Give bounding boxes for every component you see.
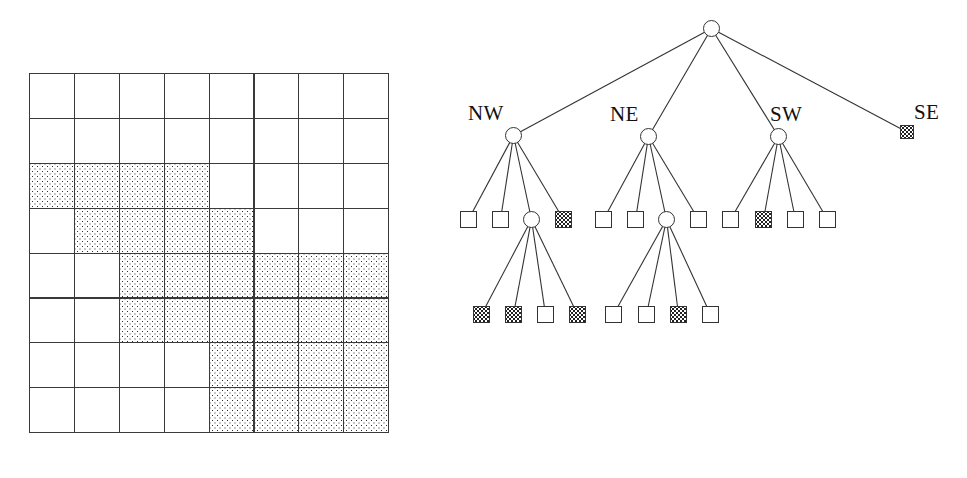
tree-node-ne-sw: [658, 211, 675, 228]
tree-node-nw-sw-ne: [505, 306, 522, 323]
tree-edge-root-to-sw: [712, 29, 779, 137]
grid-cell-r0-c7: [343, 73, 389, 119]
tree-node-ne-sw-sw: [670, 306, 687, 323]
grid-cell-r1-c6: [298, 118, 344, 164]
grid-cell-r1-c3: [164, 118, 210, 164]
grid-cell-r5-c2: [119, 298, 165, 344]
tree-node-nw: [505, 127, 522, 144]
grid-cell-r5-c5: [254, 298, 300, 344]
grid-cell-r4-c1: [74, 253, 120, 299]
tree-node-nw-sw-sw: [537, 306, 554, 323]
grid-cell-r3-c3: [164, 208, 210, 254]
grid-cell-r4-c4: [209, 253, 255, 299]
grid-cell-r5-c1: [74, 298, 120, 344]
tree-node-ne-sw-ne: [638, 306, 655, 323]
grid-cell-r3-c0: [29, 208, 75, 254]
tree-node-sw: [770, 128, 787, 145]
region-grid: [29, 73, 388, 447]
tree-edge-nw-to-nw-sw: [514, 136, 532, 220]
grid-cell-r7-c2: [119, 387, 165, 433]
grid-cell-r1-c7: [343, 118, 389, 164]
quadtree-tree: NWNESWSE: [430, 0, 967, 478]
grid-cell-r2-c3: [164, 163, 210, 209]
grid-cell-r1-c0: [29, 118, 75, 164]
grid-cell-r4-c3: [164, 253, 210, 299]
tree-edge-ne-to-ne-se: [649, 137, 699, 220]
grid-cell-r6-c5: [254, 342, 300, 388]
label-ne: NE: [610, 104, 639, 125]
grid-cell-r2-c5: [254, 163, 300, 209]
tree-edge-ne-sw-to-ne-sw-nw: [614, 220, 667, 315]
grid-cell-r0-c4: [209, 73, 255, 119]
grid-cell-r5-c7: [343, 298, 389, 344]
label-nw: NW: [468, 103, 504, 124]
grid-cell-r6-c7: [343, 342, 389, 388]
grid-cell-r6-c2: [119, 342, 165, 388]
tree-node-ne-ne: [627, 211, 644, 228]
tree-node-nw-ne: [492, 211, 509, 228]
grid-cell-r7-c6: [298, 387, 344, 433]
tree-edge-ne-sw-to-ne-sw-ne: [647, 220, 667, 315]
grid-cell-r0-c1: [74, 73, 120, 119]
tree-node-sw-sw: [787, 211, 804, 228]
quadtree-figure: NWNESWSE: [0, 0, 967, 478]
grid-cell-r5-c0: [29, 298, 75, 344]
grid-cell-r3-c1: [74, 208, 120, 254]
grid-cell-r2-c2: [119, 163, 165, 209]
tree-node-ne-sw-se: [702, 306, 719, 323]
tree-node-nw-se: [555, 211, 572, 228]
grid-cell-r3-c6: [298, 208, 344, 254]
grid-cell-r5-c4: [209, 298, 255, 344]
grid-cell-r3-c5: [254, 208, 300, 254]
grid-cell-r7-c1: [74, 387, 120, 433]
grid-cell-r6-c3: [164, 342, 210, 388]
grid-cell-r0-c2: [119, 73, 165, 119]
grid-cell-r2-c4: [209, 163, 255, 209]
grid-cell-r2-c7: [343, 163, 389, 209]
grid-cell-r4-c2: [119, 253, 165, 299]
tree-edge-root-to-se: [712, 29, 908, 133]
tree-edge-ne-sw-to-ne-sw-se: [667, 220, 711, 315]
tree-node-nw-sw-nw: [473, 306, 490, 323]
tree-node-sw-ne: [755, 211, 772, 228]
grid-cell-r6-c4: [209, 342, 255, 388]
grid-cell-r4-c6: [298, 253, 344, 299]
tree-edge-sw-to-sw-sw: [779, 137, 796, 220]
grid-cell-r5-c3: [164, 298, 210, 344]
tree-node-sw-se: [819, 211, 836, 228]
grid-cell-r3-c7: [343, 208, 389, 254]
grid-cell-r3-c2: [119, 208, 165, 254]
label-sw: SW: [770, 104, 802, 125]
grid-cell-r0-c6: [298, 73, 344, 119]
tree-edge-sw-to-sw-se: [779, 137, 828, 220]
tree-node-sw-nw: [722, 211, 739, 228]
grid-cell-r0-c0: [29, 73, 75, 119]
grid-cell-r0-c5: [254, 73, 300, 119]
grid-cell-r7-c3: [164, 387, 210, 433]
grid-cell-r4-c7: [343, 253, 389, 299]
label-se: SE: [914, 102, 939, 123]
tree-edge-nw-to-nw-se: [514, 136, 564, 220]
tree-node-nw-sw: [523, 211, 540, 228]
grid-cell-r7-c4: [209, 387, 255, 433]
tree-edge-nw-sw-to-nw-sw-ne: [514, 220, 532, 315]
grid-cell-r7-c5: [254, 387, 300, 433]
tree-node-ne: [640, 128, 657, 145]
tree-edge-ne-to-ne-sw: [649, 137, 667, 220]
tree-node-root: [703, 20, 720, 37]
grid-cell-r5-c6: [298, 298, 344, 344]
grid-cell-r2-c1: [74, 163, 120, 209]
tree-edge-root-to-ne: [649, 29, 712, 137]
grid-cell-r7-c0: [29, 387, 75, 433]
grid-cell-r0-c3: [164, 73, 210, 119]
grid-cell-r4-c0: [29, 253, 75, 299]
grid-cell-r6-c1: [74, 342, 120, 388]
grid-cell-r4-c5: [254, 253, 300, 299]
grid-cell-r3-c4: [209, 208, 255, 254]
grid-cell-r2-c0: [29, 163, 75, 209]
grid-cell-r1-c5: [254, 118, 300, 164]
tree-node-ne-se: [690, 211, 707, 228]
tree-node-nw-sw-se: [569, 306, 586, 323]
grid-cell-r1-c4: [209, 118, 255, 164]
tree-edge-nw-sw-to-nw-sw-nw: [482, 220, 532, 315]
